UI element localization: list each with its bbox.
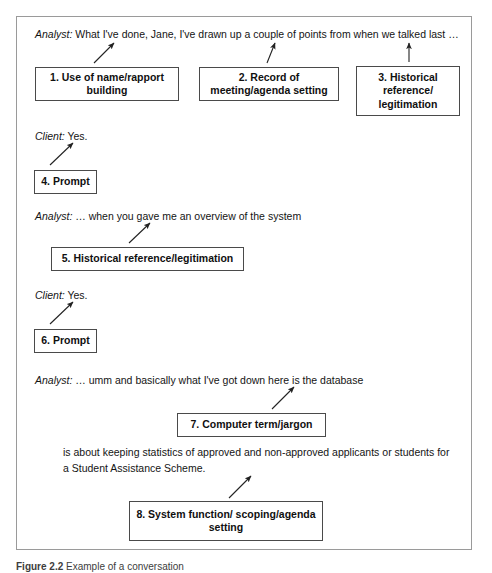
transcript-line-1-text: What I've done, Jane, I've drawn up a co…	[72, 28, 458, 40]
transcript-line-5-text: … umm and basically what I've got down h…	[72, 374, 363, 386]
transcript-line-5-speaker: Analyst:	[35, 374, 72, 386]
transcript-line-3: Analyst: … when you gave me an overview …	[35, 209, 301, 223]
figure-frame: Analyst: What I've done, Jane, I've draw…	[16, 16, 472, 550]
figure-caption-label: Figure 2.2	[16, 561, 63, 572]
figure-caption-text: Example of a conversation	[66, 561, 184, 572]
annotation-box-5-label: 5. Historical reference/legitimation	[62, 252, 234, 266]
annotation-box-8-label: 8. System function/ scoping/agenda setti…	[134, 508, 318, 535]
annotation-box-1-label: 1. Use of name/rapport building	[40, 71, 174, 98]
annotation-box-3-label: 3. Historical reference/ legitimation	[361, 71, 455, 112]
arrow-to-annotation-4	[50, 143, 73, 165]
arrow-to-annotation-7	[272, 387, 294, 409]
annotation-box-8[interactable]: 8. System function/ scoping/agenda setti…	[129, 501, 323, 541]
transcript-line-3-speaker: Analyst:	[35, 210, 72, 222]
continuation-paragraph: is about keeping statistics of approved …	[63, 445, 455, 476]
annotation-box-6-label: 6. Prompt	[41, 334, 89, 348]
arrow-to-annotation-6	[50, 302, 73, 324]
annotation-box-7-label: 7. Computer term/jargon	[191, 418, 313, 432]
annotation-box-4[interactable]: 4. Prompt	[34, 170, 97, 194]
arrow-to-annotation-5	[129, 223, 150, 243]
transcript-line-1-speaker: Analyst:	[35, 28, 72, 40]
transcript-line-4-speaker: Client:	[35, 289, 65, 301]
arrow-to-annotation-8	[229, 476, 251, 498]
transcript-line-2: Client: Yes.	[35, 129, 88, 143]
transcript-line-2-speaker: Client:	[35, 130, 65, 142]
annotation-box-6[interactable]: 6. Prompt	[34, 329, 97, 353]
annotation-box-5[interactable]: 5. Historical reference/legitimation	[51, 247, 244, 271]
arrow-to-annotation-1	[94, 43, 114, 63]
annotation-box-1[interactable]: 1. Use of name/rapport building	[35, 67, 179, 101]
annotation-box-2-label: 2. Record of meeting/agenda setting	[204, 71, 334, 98]
annotation-box-3[interactable]: 3. Historical reference/ legitimation	[356, 66, 460, 116]
transcript-line-5: Analyst: … umm and basically what I've g…	[35, 373, 363, 387]
annotation-box-7[interactable]: 7. Computer term/jargon	[177, 413, 326, 437]
transcript-line-4-text: Yes.	[65, 289, 88, 301]
transcript-line-2-text: Yes.	[65, 130, 88, 142]
transcript-line-1: Analyst: What I've done, Jane, I've draw…	[35, 27, 459, 41]
figure-caption: Figure 2.2 Example of a conversation	[16, 560, 456, 573]
arrow-to-annotation-2	[267, 43, 275, 63]
annotation-box-2[interactable]: 2. Record of meeting/agenda setting	[199, 67, 339, 101]
transcript-line-4: Client: Yes.	[35, 288, 88, 302]
transcript-line-3-text: … when you gave me an overview of the sy…	[72, 210, 301, 222]
annotation-box-4-label: 4. Prompt	[41, 175, 89, 189]
